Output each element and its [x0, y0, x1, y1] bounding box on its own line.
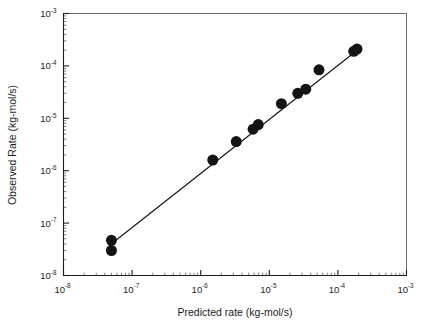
data-point — [231, 136, 242, 147]
scatter-plot: 10-810-710-610-510-410-3 10-810-710-610-… — [0, 0, 428, 327]
data-point — [352, 44, 363, 55]
data-point — [253, 119, 264, 130]
data-point — [106, 235, 117, 246]
chart-figure: 10-810-710-610-510-410-3 10-810-710-610-… — [0, 0, 428, 327]
data-point — [207, 155, 218, 166]
data-point — [276, 98, 287, 109]
data-point — [313, 64, 324, 75]
data-point — [300, 84, 311, 95]
y-axis-title: Observed Rate (kg-mol/s) — [6, 85, 18, 205]
x-axis-title: Predicted rate (kg-mol/s) — [178, 306, 293, 318]
data-point — [106, 245, 117, 256]
